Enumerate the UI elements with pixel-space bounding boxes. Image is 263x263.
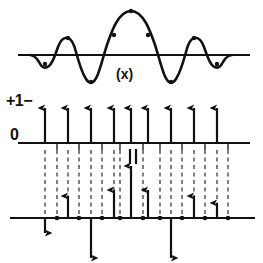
zero-sample-dot — [141, 216, 146, 221]
sample-dot — [89, 80, 93, 84]
double-bar-marker — [130, 149, 136, 164]
sample-dot — [43, 62, 47, 66]
signal-label: (x) — [116, 66, 133, 82]
panel-continuous-signal — [18, 9, 250, 84]
figure-canvas — [0, 0, 263, 263]
sampled-impulses — [45, 166, 217, 258]
zero-sample-dot — [118, 216, 123, 221]
sample-dot — [215, 62, 219, 66]
y-axis-label-zero: 0 — [10, 126, 19, 144]
impulse-train-arrows — [45, 108, 217, 143]
sample-dot — [169, 80, 173, 84]
panel-impulse-train — [18, 108, 250, 150]
sample-dot — [66, 36, 70, 40]
zero-sample-dot — [226, 216, 231, 221]
sample-dot — [192, 36, 196, 40]
sample-dot — [129, 9, 133, 13]
sampling-figure: +1− 0 (x) — [0, 0, 263, 263]
zero-sample-dot — [55, 216, 60, 221]
zero-sample-dot — [100, 216, 105, 221]
zero-sample-dot — [158, 216, 163, 221]
y-axis-label-plus-one: +1− — [6, 92, 32, 110]
zero-sample-dot — [203, 216, 208, 221]
panel-sampled-signal — [10, 166, 255, 258]
zero-sample-dots — [55, 216, 231, 221]
sample-dot — [112, 33, 116, 37]
zero-sample-dot — [77, 216, 82, 221]
sample-dot — [146, 33, 150, 37]
zero-sample-dot — [180, 216, 185, 221]
